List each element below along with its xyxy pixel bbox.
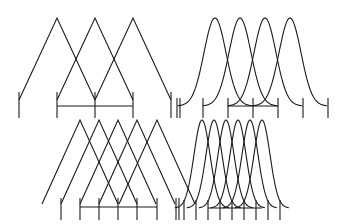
gaussian-curve <box>228 18 303 106</box>
basis-functions-diagram <box>0 0 342 224</box>
gaussian-curve <box>175 120 229 208</box>
triangle-curve <box>57 18 133 100</box>
panel-gaussians-6 <box>175 120 289 220</box>
diagram-figure <box>0 0 342 224</box>
panel-triangles-5 <box>42 120 195 220</box>
gaussian-curve <box>253 18 328 106</box>
triangle-curve <box>119 120 195 204</box>
gaussian-curve <box>203 18 278 106</box>
triangle-curve <box>19 18 95 100</box>
gaussian-curve <box>187 120 241 208</box>
panel-triangles-3 <box>19 18 171 118</box>
triangle-curve <box>95 18 171 100</box>
panel-gaussians-4 <box>177 18 328 118</box>
gaussian-curve <box>178 18 253 106</box>
